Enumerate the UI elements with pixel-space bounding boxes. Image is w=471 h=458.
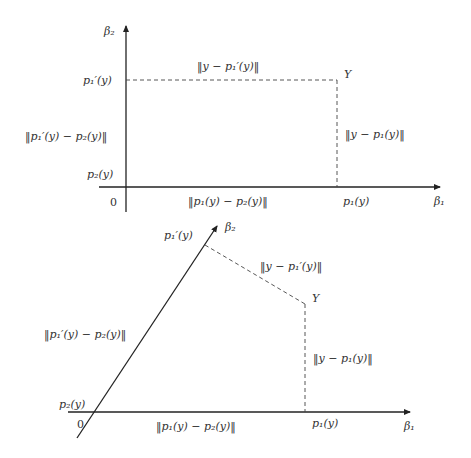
diagram-canvas: β₂ β₁ 0 Y p₁′(y) p₂(y) p₁(y) ‖y − p₁′(y)… [0,0,471,458]
origin-label: 0 [110,196,117,209]
beta1-axis-label: β₁ [403,420,415,433]
orthogonal-diagram: β₂ β₁ 0 Y p₁′(y) p₂(y) p₁(y) ‖y − p₁′(y)… [25,25,445,212]
dashed-slanted [205,245,305,304]
beta1-axis-label: β₁ [433,195,445,208]
point-y-label: Y [312,292,321,305]
point-y-label: Y [344,68,353,81]
p2-tick-label: p₂(y) [87,168,113,181]
beta2-axis-label: β₂ [103,25,115,38]
oblique-diagram: β₂ β₁ 0 Y p₁′(y) p₂(y) p₁(y) ‖y − p₁′(y)… [44,221,415,438]
p1-tick-label: p₁(y) [312,417,338,430]
left-distance-label: ‖p₁′(y) − p₂(y)‖ [44,328,126,342]
bottom-distance-label: ‖p₁(y) − p₂(y)‖ [156,420,236,434]
top-distance-label: ‖y − p₁′(y)‖ [260,260,322,274]
left-distance-label: ‖p₁′(y) − p₂(y)‖ [25,130,107,144]
right-distance-label: ‖y − p₁(y)‖ [345,128,405,142]
p1-tick-label: p₁(y) [343,195,369,208]
p1prime-tick-label: p₁′(y) [164,229,193,242]
right-distance-label: ‖y − p₁(y)‖ [313,352,373,366]
beta2-axis-label: β₂ [224,221,236,234]
top-distance-label: ‖y − p₁′(y)‖ [197,60,259,74]
p1prime-tick-label: p₁′(y) [83,74,112,87]
bottom-distance-label: ‖p₁(y) − p₂(y)‖ [188,195,268,209]
p2-tick-label: p₂(y) [59,398,85,411]
origin-label: 0 [77,418,84,431]
